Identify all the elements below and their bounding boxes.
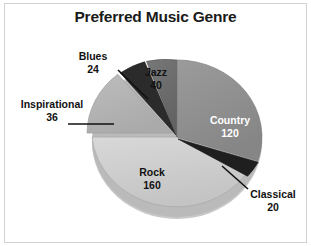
- slice-label-rock-value: 160: [122, 179, 182, 192]
- pie-chart-figure: Preferred Music Genre: [0, 0, 311, 246]
- slice-label-blues-value: 24: [66, 63, 120, 76]
- slice-label-classical-value: 20: [240, 201, 306, 214]
- slice-label-classical: Classical 20: [240, 188, 306, 213]
- slice-label-inspirational: Inspirational 36: [6, 98, 98, 123]
- slice-label-country: Country 120: [193, 114, 267, 139]
- slice-label-country-name: Country: [193, 114, 267, 127]
- slice-label-rock: Rock 160: [122, 166, 182, 191]
- slice-label-jazz-name: Jazz: [134, 66, 178, 79]
- slice-label-jazz-value: 40: [134, 79, 178, 92]
- slice-label-inspirational-value: 36: [6, 111, 98, 124]
- slice-label-country-value: 120: [193, 127, 267, 140]
- slice-label-blues: Blues 24: [66, 50, 120, 75]
- slice-label-classical-name: Classical: [240, 188, 306, 201]
- slice-label-inspirational-name: Inspirational: [6, 98, 98, 111]
- slice-label-jazz: Jazz 40: [134, 66, 178, 91]
- slice-label-blues-name: Blues: [66, 50, 120, 63]
- slice-label-rock-name: Rock: [122, 166, 182, 179]
